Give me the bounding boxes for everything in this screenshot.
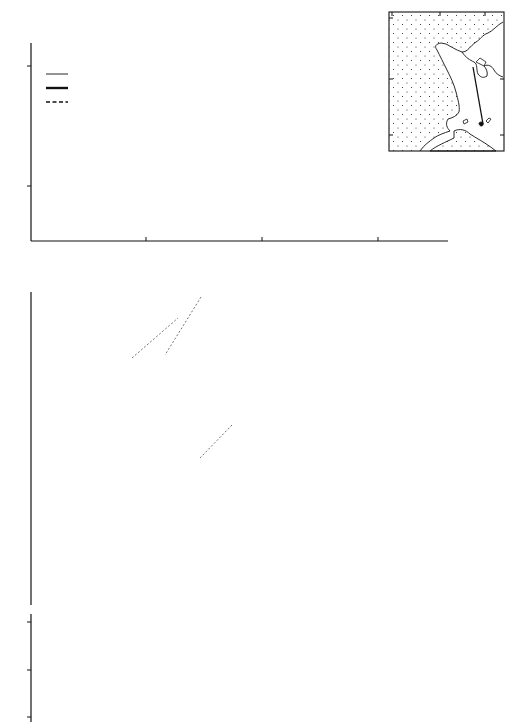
legend [46,74,68,102]
leader-sediment [132,318,178,358]
leader-basement [200,425,232,458]
cross-section-chart [31,292,232,605]
inset-map [389,12,504,151]
figure-canvas [0,0,507,728]
lower-profile-chart [27,614,31,722]
heat-flow-chart [0,0,448,241]
leader-computed-topography [165,297,201,355]
